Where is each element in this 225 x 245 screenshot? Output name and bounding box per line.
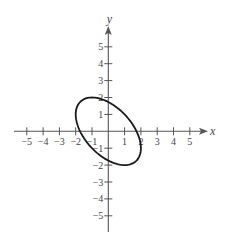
y-tick-label: −1: [93, 143, 104, 154]
x-tick-label: −5: [21, 136, 32, 147]
y-tick-label: 3: [98, 75, 103, 86]
x-tick-label: 3: [155, 136, 160, 147]
y-tick-label: 4: [98, 58, 103, 69]
x-tick-label: −4: [38, 136, 49, 147]
y-axis-label: y: [106, 12, 113, 26]
x-tick-label: 5: [187, 136, 192, 147]
y-tick-label: −5: [93, 210, 104, 221]
x-tick-label: −2: [70, 136, 81, 147]
y-tick-label: 1: [98, 109, 103, 120]
y-tick-label: −4: [93, 193, 104, 204]
y-tick-label: 5: [98, 41, 103, 52]
y-tick-label: −3: [93, 177, 104, 188]
x-tick-label: 1: [122, 136, 127, 147]
x-tick-label: −3: [54, 136, 65, 147]
y-tick-label: 2: [98, 92, 103, 103]
x-tick-label: 4: [171, 136, 176, 147]
coordinate-plane: −5−4−3−2−11234554321−1−2−3−4−5 x y: [0, 0, 225, 245]
x-axis-label: x: [209, 124, 216, 138]
y-tick-label: −2: [93, 160, 104, 171]
graph-figure: −5−4−3−2−11234554321−1−2−3−4−5 x y: [0, 0, 225, 245]
